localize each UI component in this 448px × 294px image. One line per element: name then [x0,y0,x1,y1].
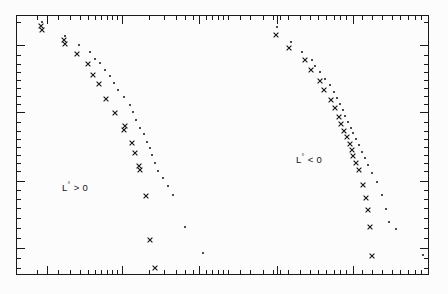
left-group-label: L° > 0 [62,181,88,193]
x-axis-minor-tick [37,270,38,275]
x-axis-top-major-tick [277,15,278,24]
x-axis-minor-tick [117,270,118,275]
data-point-cross [74,51,80,57]
x-axis-top-major-tick [122,15,123,24]
data-point-cross [103,96,109,102]
data-point-cross [308,67,314,73]
x-axis-top-minor-tick [193,15,194,20]
x-axis-minor-tick [340,270,341,275]
x-axis-top-minor-tick [228,15,229,20]
x-axis-minor-tick [95,270,96,275]
y-axis-minor-tick [16,228,21,229]
y-axis-major-tick [16,181,25,182]
x-axis-minor-tick [212,270,213,275]
y-axis-right-minor-tick [424,139,429,140]
x-axis-top-minor-tick [318,15,319,20]
x-axis-top-minor-tick [362,15,363,20]
data-point-cross [321,87,327,93]
x-axis-major-tick [353,266,354,275]
data-point-cross [147,237,153,243]
x-axis-top-minor-tick [310,15,311,20]
x-axis-major-tick [199,266,200,275]
x-axis-top-minor-tick [240,15,241,20]
x-axis-top-minor-tick [400,15,401,20]
y-axis-minor-tick [16,104,21,105]
y-axis-right-minor-tick [424,155,429,156]
y-axis-minor-tick [16,131,21,132]
y-axis-right-minor-tick [424,163,429,164]
y-axis-minor-tick [16,55,21,56]
data-point-cross [112,110,118,116]
x-axis-minor-tick [346,270,347,275]
y-axis-minor-tick [16,163,21,164]
x-axis-minor-tick [193,270,194,275]
data-point-cross [317,78,323,84]
y-axis-minor-tick [16,155,21,156]
x-axis-minor-tick [263,270,264,275]
data-point-cross [286,45,292,51]
x-axis-top-minor-tick [392,15,393,20]
y-axis-right-major-tick [420,248,429,249]
x-axis-top-minor-tick [164,15,165,20]
y-axis-right-minor-tick [424,268,429,269]
y-axis-right-minor-tick [424,199,429,200]
x-axis-top-major-tick [199,15,200,24]
data-point-cross [332,105,338,111]
x-axis-top-minor-tick [37,15,38,20]
y-axis-right-major-tick [420,112,429,113]
x-axis-minor-tick [326,270,327,275]
x-axis-minor-tick [372,270,373,275]
y-axis-right-major-tick [420,45,429,46]
x-axis-minor-tick [382,270,383,275]
x-axis-top-minor-tick [112,15,113,20]
x-axis-major-tick [122,266,123,275]
x-axis-minor-tick [280,270,281,275]
y-axis-minor-tick [16,208,21,209]
x-axis-top-minor-tick [88,15,89,20]
x-axis-minor-tick [362,270,363,275]
x-axis-minor-tick [164,270,165,275]
x-axis-minor-tick [250,270,251,275]
x-axis-top-minor-tick [273,15,274,20]
y-axis-right-minor-tick [424,80,429,81]
x-axis-major-tick [277,266,278,275]
y-axis-right-minor-tick [424,208,429,209]
data-point-cross [132,150,138,156]
y-axis-minor-tick [16,147,21,148]
data-point-cross [137,167,143,173]
data-point-cross [85,61,91,67]
x-axis-minor-tick [218,270,219,275]
data-point-cross [365,207,371,213]
data-point-cross [367,224,373,230]
x-axis-minor-tick [318,270,319,275]
y-axis-right-minor-tick [424,131,429,132]
y-axis-right-minor-tick [424,171,429,172]
x-axis-top-minor-tick [107,15,108,20]
data-point-cross [143,193,149,199]
x-axis-top-minor-tick [218,15,219,20]
y-axis-minor-tick [16,80,21,81]
x-axis-minor-tick [408,270,409,275]
x-axis-top-minor-tick [117,15,118,20]
x-axis-minor-tick [334,270,335,275]
x-axis-minor-tick [101,270,102,275]
x-axis-minor-tick [228,270,229,275]
data-point-cross [302,57,308,63]
data-point-cross [273,32,279,38]
y-axis-right-minor-tick [424,96,429,97]
y-axis-right-minor-tick [424,88,429,89]
data-point-cross [363,195,369,201]
x-axis-top-minor-tick [280,15,281,20]
y-axis-minor-tick [16,238,21,239]
y-axis-right-minor-tick [424,22,429,23]
y-axis-minor-tick [16,22,21,23]
x-axis-top-major-tick [353,15,354,24]
x-axis-top-minor-tick [206,15,207,20]
x-axis-top-major-tick [47,15,48,24]
x-axis-minor-tick [392,270,393,275]
y-axis-minor-tick [16,268,21,269]
y-axis-right-minor-tick [424,104,429,105]
x-axis-top-minor-tick [346,15,347,20]
x-axis-top-minor-tick [80,15,81,20]
x-axis-top-minor-tick [421,15,422,20]
